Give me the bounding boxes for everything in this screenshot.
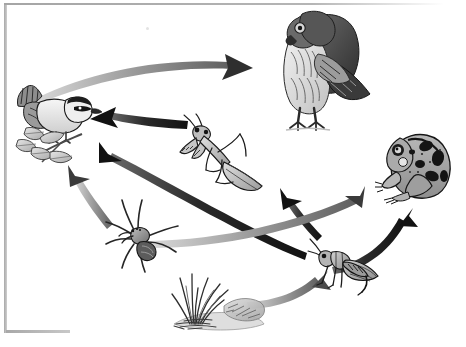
food-web-diagram [0, 0, 466, 347]
organism-frog [374, 124, 458, 204]
frame-left-border [4, 3, 7, 333]
frame-bottom-border [6, 330, 70, 333]
organism-hawk [258, 4, 376, 132]
organism-grass [168, 262, 274, 334]
organism-grasshopper [308, 238, 382, 298]
scan-speck [146, 27, 149, 30]
arrow-grasshopper-to-mantis [280, 188, 322, 241]
organism-praying-mantis [178, 114, 272, 196]
organism-songbird [10, 80, 106, 170]
frame-top-border [4, 3, 444, 5]
